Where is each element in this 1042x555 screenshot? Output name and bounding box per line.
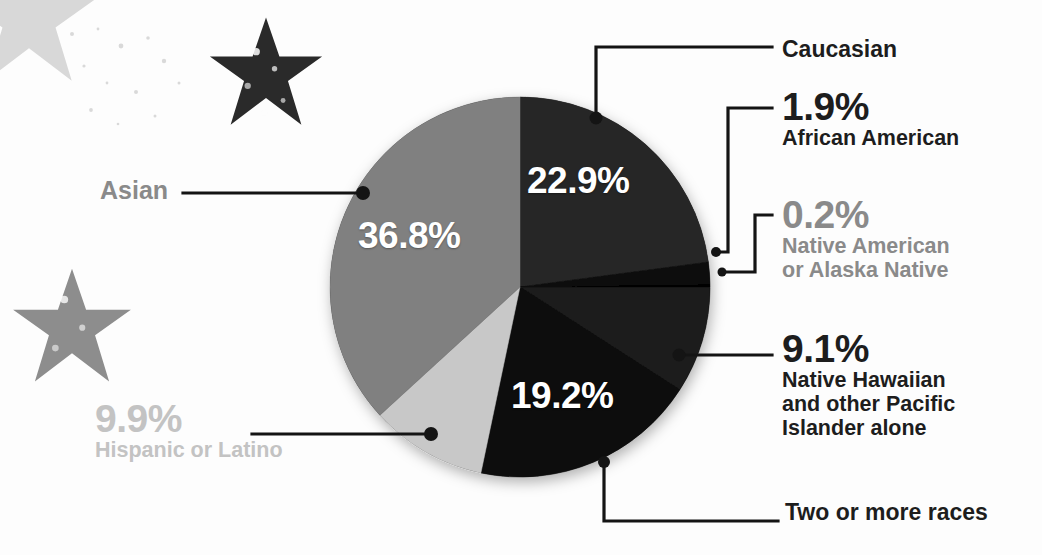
- callout-native-american-label-1: Native American: [782, 234, 950, 258]
- callout-native-hawaiian-percent: 9.1%: [782, 330, 955, 368]
- callout-native-american: 0.2% Native American or Alaska Native: [782, 196, 950, 282]
- callout-caucasian: Caucasian: [782, 37, 897, 63]
- callout-caucasian-label: Caucasian: [782, 37, 897, 63]
- callout-african-american-label: African American: [782, 126, 959, 150]
- callout-hispanic-latino-percent: 9.9%: [95, 400, 283, 438]
- slice-value-caucasian: 22.9%: [527, 160, 629, 202]
- callout-asian: Asian: [100, 176, 168, 204]
- slice-value-two-or-more-races: 19.2%: [511, 375, 613, 417]
- callout-native-hawaiian-label-2: and other Pacific: [782, 392, 955, 416]
- callout-native-hawaiian: 9.1% Native Hawaiian and other Pacific I…: [782, 330, 955, 440]
- callout-two-or-more-races: Two or more races: [785, 500, 988, 526]
- callout-asian-label: Asian: [100, 176, 168, 204]
- callout-hispanic-latino-label: Hispanic or Latino: [95, 438, 283, 462]
- slice-value-asian: 36.8%: [358, 215, 460, 257]
- grunge-speckles: [60, 20, 210, 140]
- callout-hispanic-latino: 9.9% Hispanic or Latino: [95, 400, 283, 462]
- star-top-left-faint-icon: [0, 0, 104, 88]
- star-top-dark-icon: [205, 14, 327, 132]
- callout-two-or-more-races-label: Two or more races: [785, 500, 988, 526]
- pie-slices: [330, 97, 710, 477]
- infographic-canvas: 22.9% 36.8% 19.2%: [0, 0, 1042, 555]
- callout-native-hawaiian-label-3: Islander alone: [782, 416, 955, 440]
- star-left-gray-icon: [8, 266, 136, 388]
- callout-native-american-percent: 0.2%: [782, 196, 950, 234]
- leader-native-american: [723, 215, 772, 272]
- leader-african-american: [717, 108, 772, 252]
- callout-african-american-percent: 1.9%: [782, 88, 959, 126]
- callout-native-american-label-2: or Alaska Native: [782, 258, 950, 282]
- callout-native-hawaiian-label-1: Native Hawaiian: [782, 368, 955, 392]
- callout-african-american: 1.9% African American: [782, 88, 959, 150]
